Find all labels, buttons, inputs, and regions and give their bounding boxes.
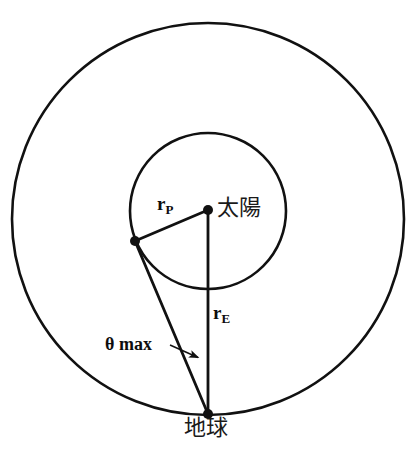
earth-radius-subscript: E: [221, 311, 230, 326]
sun-point: [203, 205, 213, 215]
orbit-diagram-figure: 太陽 地球 rP rE θ max: [0, 0, 412, 452]
planet-to-earth-line: [135, 241, 208, 414]
earth-radius-label: rE: [213, 303, 230, 325]
theta-max-label: θ max: [105, 335, 152, 353]
planet-radius-label: rP: [157, 194, 173, 216]
orbit-diagram-svg: [0, 0, 412, 452]
planet-radius-subscript: P: [165, 202, 173, 217]
sun-label: 太陽: [217, 197, 261, 219]
planet-point: [130, 236, 140, 246]
earth-label: 地球: [184, 417, 228, 439]
